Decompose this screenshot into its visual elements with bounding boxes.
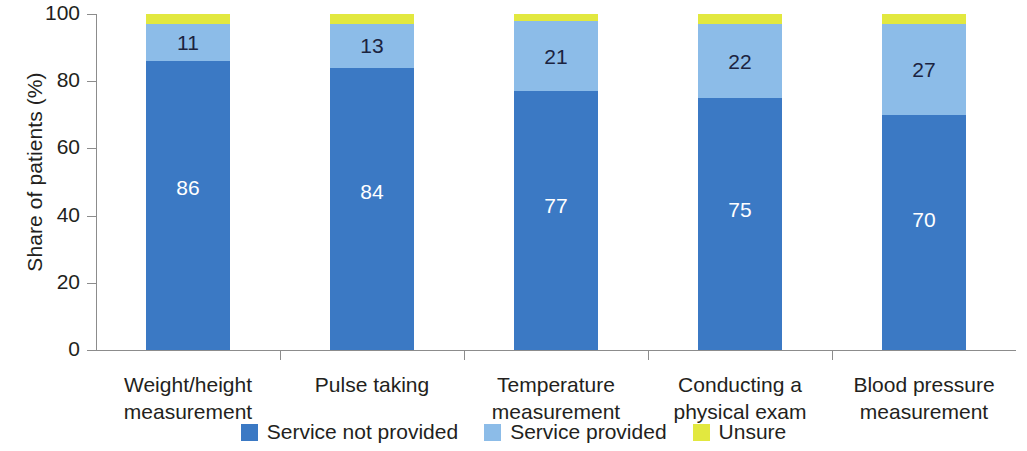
x-axis-category-label: Pulse taking: [280, 372, 464, 399]
y-axis-tick-label: 20: [57, 270, 80, 294]
chart-legend: Service not providedService providedUnsu…: [0, 420, 1027, 444]
legend-swatch-icon: [241, 424, 258, 441]
category-label-line1: Temperature: [464, 372, 648, 399]
bar-value-label: 13: [360, 35, 383, 56]
bar-value-label: 77: [544, 195, 567, 216]
bar-group[interactable]: 7721: [514, 14, 598, 350]
y-axis-tick-mark: [87, 148, 96, 149]
bar-segment-service-provided[interactable]: 11: [146, 24, 230, 61]
x-axis-separator: [280, 350, 281, 360]
y-axis-tick-label: 60: [57, 135, 80, 159]
y-axis-title: Share of patients (%): [23, 7, 47, 337]
bar-value-label: 70: [912, 209, 935, 230]
bar-segment-service-not-provided[interactable]: 75: [698, 98, 782, 350]
x-axis-category-label: Blood pressuremeasurement: [832, 372, 1016, 426]
x-axis-separator: [648, 350, 649, 360]
legend-label: Service not provided: [267, 420, 458, 444]
category-label-line1: Weight/height: [96, 372, 280, 399]
x-axis-separator: [832, 350, 833, 360]
y-axis-tick: 40: [87, 216, 96, 217]
bar-segment-service-provided[interactable]: 27: [882, 24, 966, 115]
bar-group[interactable]: 8413: [330, 14, 414, 350]
legend-label: Unsure: [719, 420, 787, 444]
x-axis-category-label: Conducting aphysical exam: [648, 372, 832, 426]
bar-segment-service-not-provided[interactable]: 86: [146, 61, 230, 350]
y-axis-tick-mark: [87, 350, 96, 351]
bar-value-label: 11: [177, 32, 199, 53]
y-axis-tick-label: 100: [45, 1, 80, 25]
y-axis-tick: 80: [87, 81, 96, 82]
legend-swatch-icon: [693, 424, 710, 441]
bar-group[interactable]: 8611: [146, 14, 230, 350]
x-axis-line: [96, 350, 1016, 351]
legend-item[interactable]: Unsure: [693, 420, 787, 444]
y-axis-tick-mark: [87, 216, 96, 217]
category-label-line1: Pulse taking: [280, 372, 464, 399]
category-label-line1: Conducting a: [648, 372, 832, 399]
bar-segment-service-provided[interactable]: 21: [514, 21, 598, 92]
legend-item[interactable]: Service not provided: [241, 420, 458, 444]
y-axis-tick: 100: [87, 14, 96, 15]
stacked-bar-chart: Share of patients (%) 020406080100 86118…: [0, 0, 1027, 451]
bar-segment-service-provided[interactable]: 22: [698, 24, 782, 98]
y-axis-tick-mark: [87, 81, 96, 82]
y-axis-tick-mark: [87, 14, 96, 15]
legend-label: Service provided: [510, 420, 666, 444]
bar-segment-service-not-provided[interactable]: 70: [882, 115, 966, 350]
bar-segment-service-provided[interactable]: 13: [330, 24, 414, 68]
bar-value-label: 75: [728, 199, 751, 220]
x-axis-category-label: Temperaturemeasurement: [464, 372, 648, 426]
bar-value-label: 22: [728, 51, 751, 72]
bar-group[interactable]: 7027: [882, 14, 966, 350]
bar-segment-unsure[interactable]: [146, 14, 230, 24]
y-axis-tick: 20: [87, 283, 96, 284]
bar-segment-unsure[interactable]: [514, 14, 598, 21]
y-axis-line: [96, 14, 97, 351]
legend-swatch-icon: [484, 424, 501, 441]
plot-area: 020406080100 86118413772175227027 Weight…: [96, 14, 1016, 350]
y-axis-tick: 60: [87, 148, 96, 149]
y-axis-tick-label: 0: [68, 337, 80, 361]
bar-segment-unsure[interactable]: [330, 14, 414, 24]
bar-segment-service-not-provided[interactable]: 77: [514, 91, 598, 350]
bar-value-label: 27: [912, 59, 935, 80]
category-label-line1: Blood pressure: [832, 372, 1016, 399]
x-axis-category-label: Weight/heightmeasurement: [96, 372, 280, 426]
bar-value-label: 21: [544, 46, 567, 67]
y-axis-tick-label: 80: [57, 68, 80, 92]
bar-segment-unsure[interactable]: [698, 14, 782, 24]
x-axis-separator: [464, 350, 465, 360]
y-axis-tick-mark: [87, 283, 96, 284]
bar-group[interactable]: 7522: [698, 14, 782, 350]
bar-value-label: 86: [176, 177, 199, 198]
y-axis-tick-label: 40: [57, 203, 80, 227]
bar-value-label: 84: [360, 181, 383, 202]
y-axis-tick: 0: [87, 350, 96, 351]
legend-item[interactable]: Service provided: [484, 420, 666, 444]
bar-segment-service-not-provided[interactable]: 84: [330, 68, 414, 350]
bar-segment-unsure[interactable]: [882, 14, 966, 24]
